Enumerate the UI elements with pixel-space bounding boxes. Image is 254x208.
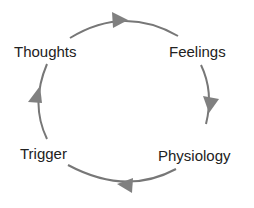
arc-thoughts-to-feelings — [70, 21, 178, 38]
arc-physiology-to-trigger — [68, 165, 176, 182]
arrow-right-icon — [112, 12, 128, 28]
node-trigger: Trigger — [20, 146, 67, 161]
arc-feelings-to-physiology — [201, 65, 209, 124]
arrow-up-icon — [28, 86, 42, 103]
node-physiology: Physiology — [158, 148, 231, 163]
cycle-diagram — [0, 0, 254, 208]
node-thoughts: Thoughts — [14, 44, 77, 59]
node-feelings: Feelings — [169, 44, 226, 59]
arrow-down-icon — [203, 96, 219, 113]
